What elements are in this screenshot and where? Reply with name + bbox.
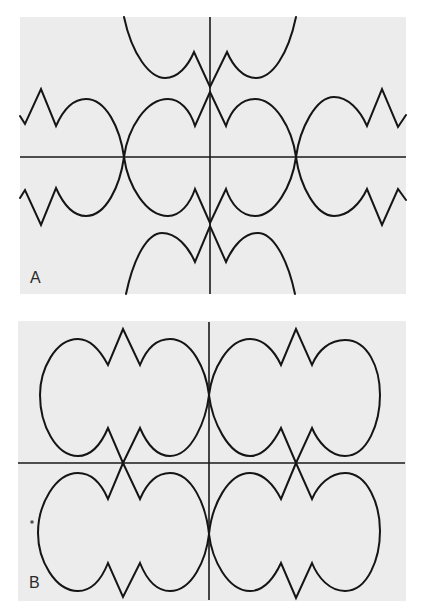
figure-canvas: A B [0, 0, 425, 616]
panel-b-label: B [29, 574, 40, 591]
panel-a-label: A [30, 269, 41, 286]
panel-b: B [18, 321, 406, 601]
panel-a-background [20, 17, 406, 294]
speck-mark [30, 520, 34, 524]
panel-a: A [20, 17, 406, 294]
panel-b-background [18, 321, 406, 601]
panel-b-specks [30, 520, 34, 524]
